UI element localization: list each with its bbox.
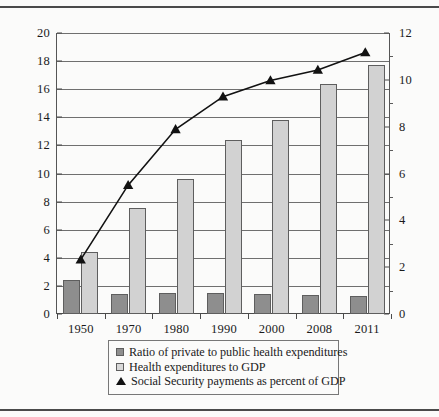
bar-health-expenditures-gdp (177, 179, 194, 314)
x-axis-tick (248, 314, 249, 319)
y-axis-left-tick-label: 10 (37, 166, 57, 181)
y-axis-right-tick-label: 6 (389, 166, 405, 181)
y-axis-left-tick-label: 8 (44, 194, 57, 209)
chart-legend: Ratio of private to public health expend… (108, 340, 339, 395)
bar-ratio-private-public (111, 294, 128, 314)
bar-health-expenditures-gdp (368, 65, 385, 314)
bar-health-expenditures-gdp (320, 84, 337, 314)
legend-item-social-security: Social Security payments as percent of G… (116, 374, 332, 389)
y-axis-left-tick-label: 0 (44, 307, 57, 322)
x-axis-tick (152, 314, 153, 319)
chart-page: 02468101214161820 024681012 195019701980… (0, 0, 439, 417)
y-axis-right-tick-label: 10 (389, 72, 412, 87)
legend-item-ratio-private-public: Ratio of private to public health expend… (116, 345, 332, 360)
y-axis-right-minor-tick (389, 150, 393, 151)
bar-ratio-private-public (207, 293, 224, 314)
y-axis-left-tick-label: 4 (44, 250, 57, 265)
x-axis-label: 1990 (211, 322, 237, 337)
x-axis-tick (343, 314, 344, 319)
legend-item-health-expenditures: Health expenditures to GDP (116, 360, 332, 375)
y-axis-right-minor-tick (389, 291, 393, 292)
y-axis-left-tick-label: 2 (44, 278, 57, 293)
legend-label-health-expenditures: Health expenditures to GDP (129, 360, 265, 375)
x-axis-label: 1970 (116, 322, 142, 337)
y-axis-right-tick-label: 4 (389, 213, 405, 228)
legend-label-social-security: Social Security payments as percent of G… (131, 374, 346, 389)
bar-health-expenditures-gdp (81, 252, 98, 314)
legend-label-ratio-private-public: Ratio of private to public health expend… (129, 345, 347, 360)
y-axis-left-tick-label: 20 (37, 26, 57, 41)
legend-triangle-icon (116, 377, 126, 385)
x-axis-tick (105, 314, 106, 319)
y-axis-right-minor-tick (389, 197, 393, 198)
plot-area (57, 33, 389, 314)
x-axis-tick (200, 314, 201, 319)
y-axis-right-minor-tick (389, 56, 393, 57)
bar-ratio-private-public (63, 280, 80, 314)
y-axis-left-tick-label: 6 (44, 222, 57, 237)
bar-health-expenditures-gdp (272, 120, 289, 314)
bar-health-expenditures-gdp (225, 140, 242, 314)
y-axis-left-tick-label: 12 (37, 138, 57, 153)
bar-ratio-private-public (302, 295, 319, 314)
bottom-divider-rule (0, 409, 439, 411)
x-axis-label: 2008 (307, 322, 333, 337)
y-axis-right-tick-label: 2 (389, 260, 405, 275)
x-axis-tick (296, 314, 297, 319)
x-axis-label: 1980 (163, 322, 189, 337)
y-axis-right-minor-tick (389, 103, 393, 104)
y-axis-right-tick-label: 8 (389, 119, 405, 134)
y-axis-left-tick-label: 14 (37, 110, 57, 125)
legend-swatch-dark-icon (116, 348, 124, 356)
y-axis-right-tick-label: 12 (389, 26, 412, 41)
x-axis-label: 1950 (68, 322, 94, 337)
y-axis-left-tick-label: 18 (37, 54, 57, 69)
bar-ratio-private-public (350, 296, 367, 314)
chart-plot-frame: 02468101214161820 024681012 195019701980… (56, 33, 390, 314)
x-axis-tick (391, 314, 392, 319)
y-axis-left-tick-label: 16 (37, 82, 57, 97)
top-divider-rule (0, 6, 439, 8)
bar-health-expenditures-gdp (129, 208, 146, 314)
bar-ratio-private-public (254, 294, 271, 314)
x-axis-label: 2000 (259, 322, 285, 337)
bar-ratio-private-public (159, 293, 176, 314)
x-axis-tick (57, 314, 58, 319)
x-axis-label: 2011 (354, 322, 379, 337)
legend-swatch-light-icon (116, 363, 124, 371)
y-axis-right-minor-tick (389, 244, 393, 245)
